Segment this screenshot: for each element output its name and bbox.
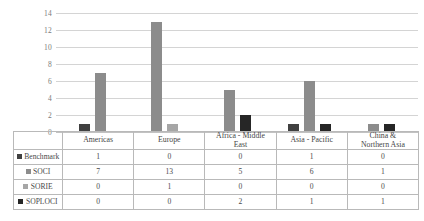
data-table: AmericasEuropeAfrica - MiddleEastAsia - … xyxy=(13,131,419,210)
column-header-europe: Europe xyxy=(134,132,205,150)
plot-area: 14121086420 xyxy=(0,0,424,137)
table-cell: 2 xyxy=(205,195,276,210)
bar-soci-2 xyxy=(224,90,235,133)
y-tick-label: 8 xyxy=(48,60,52,69)
table-cell: 0 xyxy=(63,180,134,195)
legend-swatch-icon xyxy=(23,184,28,189)
column-header-line: Northern Asia xyxy=(348,141,418,150)
table-row: SOPLOCI00211 xyxy=(14,195,419,210)
table-corner-cell xyxy=(14,132,63,150)
legend-label: SOPLOCI xyxy=(26,197,58,206)
y-tick-label: 6 xyxy=(48,77,52,86)
legend-label: SOCI xyxy=(33,167,50,176)
column-header-line: Americas xyxy=(63,136,133,145)
legend-swatch-icon xyxy=(26,169,31,174)
legend-item-sorie: SORIE xyxy=(14,180,63,195)
legend-item-soploci: SOPLOCI xyxy=(14,195,63,210)
table-header-row: AmericasEuropeAfrica - MiddleEastAsia - … xyxy=(14,132,419,150)
table-cell: 1 xyxy=(276,195,347,210)
table-cell: 1 xyxy=(276,150,347,165)
table-cell: 0 xyxy=(205,150,276,165)
table-cell: 0 xyxy=(63,195,134,210)
legend-label: SORIE xyxy=(31,182,53,191)
table-cell: 0 xyxy=(347,180,418,195)
column-header-africa-middle-east: Africa - MiddleEast xyxy=(205,132,276,150)
bar-soci-3 xyxy=(304,81,315,132)
table-cell: 0 xyxy=(134,150,205,165)
column-header-americas: Americas xyxy=(63,132,134,150)
bar-group xyxy=(201,13,273,132)
table-cell: 0 xyxy=(276,180,347,195)
table-cell: 1 xyxy=(63,150,134,165)
y-tick-label: 14 xyxy=(44,9,52,18)
table-cell: 0 xyxy=(205,180,276,195)
bar-soploci-2 xyxy=(240,115,251,132)
table-cell: 0 xyxy=(347,150,418,165)
table-cell: 7 xyxy=(63,165,134,180)
y-tick-label: 10 xyxy=(44,43,52,52)
bar-group xyxy=(56,13,128,132)
legend-label: Benchmark xyxy=(24,152,59,161)
legend-item-benchmark: Benchmark xyxy=(14,150,63,165)
bar-group xyxy=(346,13,418,132)
grouped-bar-chart-with-data-table: 14121086420 AmericasEuropeAfrica - Middl… xyxy=(0,0,424,221)
table-cell: 1 xyxy=(347,165,418,180)
table-cell: 0 xyxy=(134,195,205,210)
table-cell: 1 xyxy=(347,195,418,210)
table-row: SORIE01000 xyxy=(14,180,419,195)
table-cell: 6 xyxy=(276,165,347,180)
table-row: SOCI713561 xyxy=(14,165,419,180)
y-axis: 14121086420 xyxy=(30,13,52,132)
table-cell: 5 xyxy=(205,165,276,180)
legend-item-soci: SOCI xyxy=(14,165,63,180)
table-row: Benchmark10010 xyxy=(14,150,419,165)
y-tick-label: 4 xyxy=(48,94,52,103)
column-header-line: Europe xyxy=(134,136,204,145)
y-tick-label: 12 xyxy=(44,26,52,35)
column-header-line: Asia - Pacific xyxy=(277,136,347,145)
column-header-line: East xyxy=(205,141,275,150)
bar-group xyxy=(273,13,345,132)
bar-group xyxy=(128,13,200,132)
bars-layer xyxy=(56,13,418,132)
legend-swatch-icon xyxy=(18,199,23,204)
bar-soci-1 xyxy=(151,22,162,133)
table-cell: 13 xyxy=(134,165,205,180)
bar-soci-0 xyxy=(95,73,106,133)
data-table-container: AmericasEuropeAfrica - MiddleEastAsia - … xyxy=(13,131,419,210)
y-tick-label: 2 xyxy=(48,111,52,120)
legend-swatch-icon xyxy=(17,154,22,159)
column-header-china-northern-asia: China &Northern Asia xyxy=(347,132,418,150)
column-header-asia-pacific: Asia - Pacific xyxy=(276,132,347,150)
table-cell: 1 xyxy=(134,180,205,195)
